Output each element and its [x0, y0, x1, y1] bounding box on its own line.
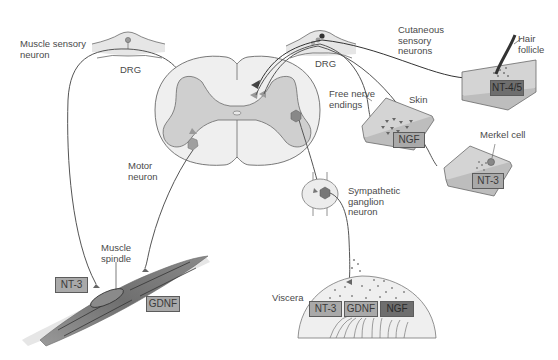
label-cutaneous-sensory-neurons: Cutaneous sensory neurons	[398, 25, 444, 57]
label-muscle-spindle: Muscle spindle	[101, 243, 131, 264]
factor-box-nt45: NT-4/5	[490, 80, 524, 96]
label-merkel-cell: Merkel cell	[480, 130, 525, 141]
factor-box-nt3-viscera: NT-3	[309, 301, 342, 317]
spinal-cord	[155, 56, 320, 165]
label-muscle-sensory-neuron: Muscle sensory neuron	[20, 39, 86, 60]
merkel-cell	[488, 159, 495, 166]
label-viscera: Viscera	[272, 293, 304, 304]
factor-box-nt3-muscle: NT-3	[55, 277, 88, 293]
factor-box-ngf-viscera: NGF	[380, 301, 414, 317]
label-free-nerve-endings: Free nerve endings	[329, 89, 375, 110]
viscera	[298, 259, 436, 338]
label-drg-left: DRG	[120, 65, 141, 76]
factor-box-ngf-skin: NGF	[393, 132, 425, 148]
muscle	[22, 256, 210, 346]
drg-right-cell-body-dark	[319, 33, 324, 38]
label-sympathetic-ganglion-neuron: Sympathetic ganglion neuron	[348, 186, 400, 218]
factor-box-gdnf-muscle: GDNF	[146, 296, 180, 312]
factor-box-nt3-merkel: NT-3	[472, 173, 504, 189]
label-hair-follicle: Hair follicle	[518, 34, 544, 55]
factor-box-gdnf-viscera: GDNF	[344, 301, 378, 317]
label-skin: Skin	[409, 95, 427, 106]
drg-left-cell-body	[125, 37, 130, 42]
label-motor-neuron: Motor neuron	[128, 161, 158, 182]
postganglionic-axon	[330, 193, 350, 282]
label-drg-right: DRG	[315, 59, 336, 70]
